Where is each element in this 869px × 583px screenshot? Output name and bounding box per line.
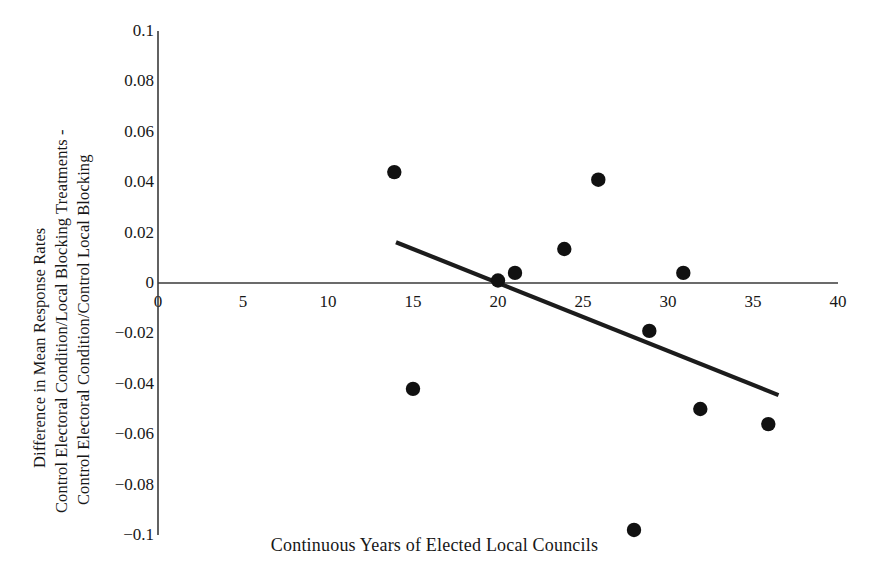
data-point (642, 324, 656, 338)
trendline (396, 242, 779, 395)
data-point (557, 242, 571, 256)
plot-area (0, 0, 869, 583)
data-point (591, 172, 605, 186)
data-point (508, 266, 522, 280)
scatter-chart-figure: Difference in Mean Response Rates Contro… (0, 0, 869, 583)
data-point (491, 273, 505, 287)
x-axis-title: Continuous Years of Elected Local Counci… (0, 535, 869, 556)
data-point (406, 382, 420, 396)
data-point (761, 417, 775, 431)
data-point (387, 165, 401, 179)
data-point (693, 402, 707, 416)
data-point (676, 266, 690, 280)
